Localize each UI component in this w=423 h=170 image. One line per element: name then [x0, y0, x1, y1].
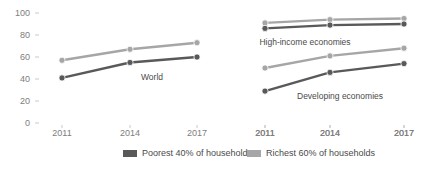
- data-point-marker: [127, 59, 133, 65]
- panel-annotation-label: World: [141, 72, 163, 82]
- data-point-marker: [262, 65, 268, 71]
- x-axis-tick-label: 2014: [320, 128, 340, 138]
- series-line: [265, 64, 404, 92]
- legend-label: Poorest 40% of households: [142, 148, 253, 158]
- data-series: [262, 45, 407, 71]
- data-point-marker: [401, 45, 407, 51]
- y-axis-tick-label: 0: [25, 118, 30, 128]
- x-axis-tick-label: 2011: [52, 128, 71, 138]
- data-point-marker: [127, 46, 133, 52]
- legend-item[interactable]: Poorest 40% of households: [123, 148, 253, 158]
- data-point-marker: [401, 61, 407, 67]
- y-axis-tick-label: 20: [20, 96, 30, 106]
- x-axis-tick-label: 2017: [394, 128, 414, 138]
- data-point-marker: [327, 69, 333, 75]
- data-point-marker: [194, 40, 200, 46]
- data-point-marker: [262, 25, 268, 31]
- data-point-marker: [59, 75, 65, 81]
- y-axis-tick-label: 80: [20, 30, 30, 40]
- y-axis-tick-label: 100: [15, 8, 30, 18]
- data-point-marker: [262, 88, 268, 94]
- x-axis-tick-label: 2014: [120, 128, 140, 138]
- data-point-marker: [59, 57, 65, 63]
- high-income-panel: 201120142017High-income economies: [255, 15, 414, 138]
- legend-item[interactable]: Richest 60% of households: [247, 148, 376, 158]
- panel-annotation-label: High-income economies: [259, 37, 350, 47]
- series-line: [265, 24, 404, 28]
- series-line: [265, 19, 404, 23]
- chart-legend: Poorest 40% of householdsRichest 60% of …: [123, 148, 376, 158]
- developing-panel: 201120142017Developing economies: [255, 45, 414, 138]
- panel-annotation-label: Developing economies: [297, 91, 383, 101]
- grouped-line-chart: 020406080100201120142017World20112014201…: [0, 0, 423, 170]
- legend-label: Richest 60% of households: [266, 148, 376, 158]
- x-axis-tick-label: 2017: [187, 128, 207, 138]
- legend-swatch: [247, 150, 261, 157]
- data-point-marker: [327, 53, 333, 59]
- y-axis-tick-label: 60: [20, 52, 30, 62]
- y-axis-tick-label: 40: [20, 74, 30, 84]
- y-axis: 020406080100: [15, 8, 39, 128]
- legend-swatch: [123, 150, 137, 157]
- chart-container: 020406080100201120142017World20112014201…: [0, 0, 423, 170]
- x-axis-tick-label: 2011: [255, 128, 274, 138]
- data-point-marker: [401, 21, 407, 27]
- data-point-marker: [194, 54, 200, 60]
- world-panel: 201120142017World: [52, 40, 207, 138]
- data-point-marker: [327, 22, 333, 28]
